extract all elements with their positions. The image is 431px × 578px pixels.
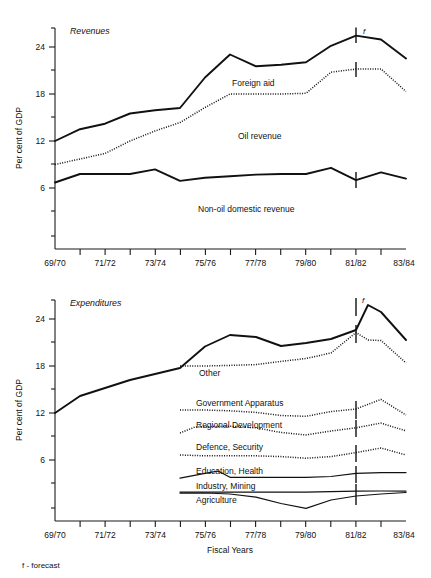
label-agriculture: Agriculture <box>196 495 237 505</box>
series-non-oil-revenue-line <box>55 168 406 183</box>
expenditures-xtick-7: 83/84 <box>393 530 415 540</box>
expenditures-forecast-label: f <box>362 296 365 305</box>
revenues-ytick-12: 12 <box>36 136 46 146</box>
expenditures-x-ticks <box>80 521 381 527</box>
label-regional-development: Regional Development <box>196 420 283 430</box>
expenditures-y-axis-title: Per cent of GDP <box>14 379 24 441</box>
expenditures-y-ticks <box>49 300 55 508</box>
revenues-y-axis-title: Per cent of GDP <box>14 107 24 169</box>
expenditures-xtick-6: 81/82 <box>345 530 367 540</box>
revenues-panel: 24 18 12 6 Per cent of GDP Revenues 69/7… <box>14 26 415 268</box>
revenues-y-ticks <box>49 28 55 236</box>
revenues-forecast-label: f <box>363 27 366 36</box>
label-foreign-aid: Foreign aid <box>232 78 275 88</box>
expenditures-xtick-5: 79/80 <box>295 530 317 540</box>
expenditures-panel-title: Expenditures <box>70 298 122 308</box>
label-non-oil-domestic-revenue: Non-oil domestic revenue <box>198 204 295 214</box>
revenues-xtick-5: 79/80 <box>295 258 317 268</box>
label-oil-revenue: Oil revenue <box>238 131 282 141</box>
label-education-health: Education, Health <box>196 466 263 476</box>
expenditures-x-axis-title: Fiscal Years <box>207 545 253 555</box>
series-oil-revenue-line <box>55 69 406 165</box>
revenues-ytick-18: 18 <box>36 89 46 99</box>
revenues-xtick-7: 83/84 <box>393 258 415 268</box>
expenditures-xtick-2: 73/74 <box>145 530 167 540</box>
expenditures-xtick-4: 77/78 <box>245 530 267 540</box>
label-government-apparatus: Government Apparatus <box>196 398 283 408</box>
revenues-ytick-24: 24 <box>36 42 46 52</box>
revenues-panel-title: Revenues <box>70 26 110 36</box>
chart-canvas: 24 18 12 6 Per cent of GDP Revenues 69/7… <box>0 0 431 578</box>
expenditures-ytick-12: 12 <box>36 408 46 418</box>
label-other: Other <box>199 368 220 378</box>
expenditures-xtick-0: 69/70 <box>44 530 66 540</box>
revenues-xtick-2: 73/74 <box>145 258 167 268</box>
expenditures-ytick-6: 6 <box>40 455 45 465</box>
revenues-xtick-3: 75/76 <box>195 258 217 268</box>
expenditures-ytick-18: 18 <box>36 361 46 371</box>
expenditures-ytick-24: 24 <box>36 314 46 324</box>
expenditures-xtick-1: 71/72 <box>94 530 116 540</box>
revenues-x-ticks <box>80 249 381 255</box>
series-foreign-aid-line <box>55 36 406 141</box>
series-other-line <box>180 333 406 367</box>
expenditures-xtick-3: 75/76 <box>195 530 217 540</box>
figure-root: 24 18 12 6 Per cent of GDP Revenues 69/7… <box>0 0 431 578</box>
series-industry-mining-line <box>180 491 406 492</box>
revenues-xtick-6: 81/82 <box>345 258 367 268</box>
series-total-expenditure-line <box>55 305 406 413</box>
expenditures-panel: 24 18 12 6 Per cent of GDP Expenditures … <box>14 296 415 555</box>
revenues-xtick-4: 77/78 <box>245 258 267 268</box>
label-industry-mining: Industry, Mining <box>196 481 256 491</box>
forecast-footnote: f - forecast <box>22 561 61 570</box>
revenues-xtick-0: 69/70 <box>44 258 66 268</box>
revenues-xtick-1: 71/72 <box>94 258 116 268</box>
label-defence-security: Defence, Security <box>196 442 264 452</box>
revenues-ytick-6: 6 <box>40 183 45 193</box>
